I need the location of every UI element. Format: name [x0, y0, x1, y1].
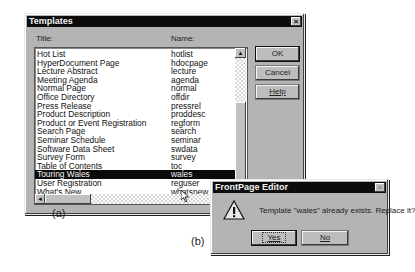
- no-button[interactable]: No: [302, 231, 348, 245]
- scroll-up-button[interactable]: ▲: [235, 48, 246, 58]
- yes-button[interactable]: Yes: [252, 231, 296, 245]
- caption-a: (a): [52, 207, 65, 219]
- confirm-title-bar[interactable]: FrontPage Editor ×: [213, 182, 386, 193]
- no-label: No: [320, 233, 330, 242]
- yes-label: Yes: [263, 233, 284, 242]
- ok-button[interactable]: OK: [256, 47, 299, 61]
- cancel-label: Cancel: [265, 68, 290, 77]
- ok-label: OK: [272, 49, 284, 58]
- close-button[interactable]: ×: [375, 183, 385, 192]
- close-button[interactable]: ×: [291, 17, 301, 26]
- cancel-button[interactable]: Cancel: [256, 66, 299, 80]
- scroll-left-button[interactable]: ◄: [35, 194, 45, 204]
- warning-icon: [223, 200, 245, 220]
- templates-title-bar[interactable]: Templates ×: [27, 16, 302, 27]
- confirm-title: FrontPage Editor: [215, 182, 288, 192]
- help-label: Help: [269, 87, 285, 96]
- help-button[interactable]: Help: [256, 85, 299, 99]
- arrow-left-icon: ◄: [37, 196, 43, 202]
- scroll-track[interactable]: [235, 58, 246, 102]
- close-icon: ×: [294, 17, 299, 26]
- name-column-label: Name:: [171, 34, 195, 43]
- templates-title: Templates: [29, 16, 73, 26]
- horizontal-scroll-thumb[interactable]: [45, 194, 91, 204]
- confirm-dialog: FrontPage Editor × Template "wales" alre…: [210, 179, 389, 255]
- vertical-scrollbar[interactable]: ▲: [235, 48, 246, 194]
- confirm-message: Template "wales" already exists. Replace…: [259, 206, 415, 215]
- caption-b: (b): [191, 235, 204, 247]
- title-column-label: Title:: [36, 34, 53, 43]
- mouse-cursor-icon: [181, 190, 190, 203]
- arrow-up-icon: ▲: [238, 50, 244, 56]
- close-icon: ×: [378, 183, 383, 192]
